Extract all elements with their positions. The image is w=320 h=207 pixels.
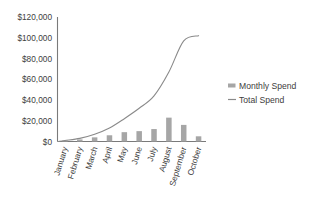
bar — [151, 129, 157, 141]
y-axis-tick-label: $100,000 — [17, 33, 52, 43]
x-axis-tick-label: June — [129, 145, 144, 165]
line-series-total-spend — [58, 36, 199, 142]
y-axis-tick-label: $120,000 — [17, 12, 52, 22]
bar — [77, 139, 83, 141]
bar — [122, 132, 128, 141]
y-axis-tick-label: $40,000 — [22, 95, 52, 105]
bar — [166, 118, 172, 142]
spend-chart: $120,000$100,000$80,000$60,000$40,000$20… — [0, 0, 320, 207]
bar — [196, 136, 202, 141]
legend-swatch-monthly-spend — [228, 84, 236, 88]
y-axis-tick-labels: $120,000$100,000$80,000$60,000$40,000$20… — [17, 12, 52, 147]
chart-legend: Monthly Spend Total Spend — [228, 81, 297, 105]
bar — [107, 135, 113, 141]
x-axis-tick-label: April — [100, 145, 114, 164]
legend-label-total-spend: Total Spend — [239, 95, 285, 105]
bar — [181, 125, 187, 142]
chart-container: $120,000$100,000$80,000$60,000$40,000$20… — [0, 0, 320, 207]
bar — [136, 131, 142, 141]
bar — [92, 137, 98, 141]
y-axis-tick-label: $60,000 — [22, 74, 52, 84]
y-axis-tick-label: $20,000 — [22, 116, 52, 126]
x-axis-tick-label: May — [115, 145, 129, 164]
x-axis-tick-labels: JanuaryFebruaryMarchAprilMayJuneJulyAugu… — [52, 145, 204, 188]
x-axis-tick-label: March — [83, 145, 99, 170]
y-axis-tick-label: $0 — [43, 137, 53, 147]
legend-label-monthly-spend: Monthly Spend — [239, 81, 297, 91]
y-axis-tick-label: $80,000 — [22, 54, 52, 64]
x-axis-tick-label: July — [145, 145, 159, 163]
